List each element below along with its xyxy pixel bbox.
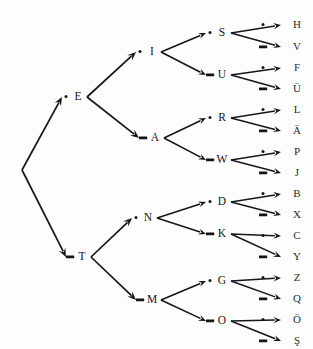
tree-edge <box>231 202 275 213</box>
tree-edge <box>231 320 275 321</box>
node-letter-G: G <box>218 274 226 286</box>
tree-edge <box>231 153 275 160</box>
dot-symbol-icon <box>65 95 68 98</box>
tree-edge <box>231 111 275 118</box>
tree-edge <box>161 283 200 300</box>
tree-edge <box>231 278 275 281</box>
tree-edge <box>164 138 201 157</box>
tree-edge <box>231 195 275 202</box>
tree-svg-canvas: ETIANMSURWDKGOHVFÜLÄPJBXCYZQÖŞ <box>0 0 313 349</box>
dot-symbol-icon <box>262 276 265 279</box>
tree-edge <box>22 170 63 251</box>
tree-edge <box>22 102 59 170</box>
tree-edge <box>231 75 275 87</box>
leaf-letter-Y: Y <box>293 250 301 262</box>
dash-symbol-icon <box>259 339 267 342</box>
node-letter-K: K <box>218 227 227 239</box>
dash-symbol-icon <box>259 87 267 90</box>
node-letter-R: R <box>218 111 226 123</box>
node-letter-O: O <box>218 314 226 326</box>
dash-symbol-icon <box>259 255 267 258</box>
dot-symbol-icon <box>209 116 212 119</box>
tree-edge <box>164 121 200 138</box>
tree-edge <box>231 118 275 129</box>
dash-symbol-icon <box>206 73 214 76</box>
leaf-letter-P: P <box>294 145 300 157</box>
tree-edge <box>87 56 131 97</box>
tree-edge <box>231 281 275 297</box>
tree-edge <box>231 69 275 75</box>
tree-edge <box>161 52 200 72</box>
node-letter-A: A <box>151 131 160 143</box>
leaf-letter-Ä: Ä <box>293 124 301 136</box>
leaf-letter-Z: Z <box>294 271 301 283</box>
dot-symbol-icon <box>262 150 265 153</box>
dash-symbol-icon <box>259 129 267 132</box>
dot-symbol-icon <box>262 318 265 321</box>
dash-symbol-icon <box>206 232 214 235</box>
leaf-letter-X: X <box>293 208 301 220</box>
dot-symbol-icon <box>209 279 212 282</box>
tree-edge <box>231 234 275 254</box>
dot-symbol-icon <box>262 66 265 69</box>
dot-symbol-icon <box>135 216 138 219</box>
dash-symbol-icon <box>259 297 267 300</box>
dot-symbol-icon <box>209 200 212 203</box>
dash-symbol-icon <box>259 171 267 174</box>
dash-symbol-icon <box>136 298 144 301</box>
node-letter-M: M <box>147 293 157 305</box>
tree-edge <box>157 204 200 218</box>
node-letter-U: U <box>218 68 227 80</box>
tree-edge <box>161 300 200 318</box>
leaf-letter-F: F <box>294 61 300 73</box>
dash-symbol-icon <box>259 45 267 48</box>
leaf-letter-Ü: Ü <box>293 82 301 94</box>
morse-code-tree-diagram: ETIANMSURWDKGOHVFÜLÄPJBXCYZQÖŞ <box>0 0 313 349</box>
tree-edge <box>231 160 275 171</box>
leaf-letter-Q: Q <box>293 292 301 304</box>
node-letter-W: W <box>217 153 228 165</box>
leaf-letter-H: H <box>293 18 301 30</box>
dash-symbol-icon <box>206 319 214 322</box>
node-letter-D: D <box>218 195 226 207</box>
tree-edge <box>231 26 275 33</box>
leaf-letter-J: J <box>295 166 300 178</box>
leaf-letter-Ş: Ş <box>294 334 300 346</box>
tree-edge <box>157 218 200 232</box>
tree-edge <box>231 33 275 45</box>
leaf-letter-V: V <box>293 40 301 52</box>
node-labels-layer: ETIANMSURWDKGOHVFÜLÄPJBXCYZQÖŞ <box>74 18 301 346</box>
tree-edge <box>231 321 275 339</box>
leaf-letter-L: L <box>294 103 301 115</box>
dash-symbol-icon <box>66 255 74 258</box>
leaf-letter-C: C <box>293 229 300 241</box>
tree-edge <box>231 234 275 236</box>
dot-symbol-icon <box>262 234 265 237</box>
leaf-letter-Ö: Ö <box>293 313 301 325</box>
tree-edge <box>91 257 132 296</box>
dash-symbol-icon <box>206 158 214 161</box>
dot-symbol-icon <box>262 192 265 195</box>
symbol-markers-layer <box>65 23 268 342</box>
node-letter-N: N <box>144 211 153 223</box>
node-letter-E: E <box>74 90 81 102</box>
leaf-letter-B: B <box>293 187 300 199</box>
dot-symbol-icon <box>262 23 265 26</box>
dot-symbol-icon <box>209 31 212 34</box>
tree-edge <box>91 222 128 257</box>
dash-symbol-icon <box>139 136 147 139</box>
tree-edge <box>87 97 134 134</box>
node-letter-I: I <box>150 45 154 57</box>
node-letter-T: T <box>78 250 85 262</box>
node-letter-S: S <box>219 26 225 38</box>
dot-symbol-icon <box>262 108 265 111</box>
dash-symbol-icon <box>259 213 267 216</box>
tree-edge <box>161 35 200 52</box>
dot-symbol-icon <box>139 50 142 53</box>
arrowheads-layer <box>55 23 281 341</box>
